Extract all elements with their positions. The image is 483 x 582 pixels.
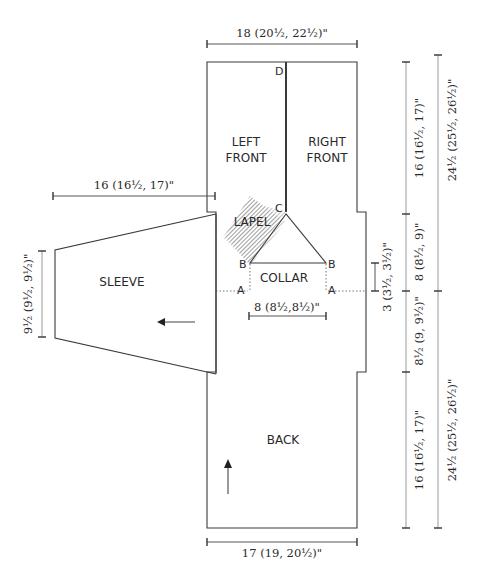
back-label: BACK [267, 433, 301, 447]
right-front-label-2: FRONT [307, 151, 349, 165]
front-length-measure: 16 (16½, 17)" [412, 98, 426, 178]
point-d: D [275, 65, 283, 78]
back-total-measure: 24½ (25½, 26½)" [445, 379, 459, 482]
collar-width-measure: 8 (8½,8½)" [254, 300, 320, 314]
front-width-measure: 18 (20½, 22½)" [236, 26, 327, 40]
front-armhole-measure: 8 (8½, 9)" [412, 223, 426, 281]
front-total-measure: 24½ (25½, 26½)" [445, 79, 459, 182]
right-front-label-1: RIGHT [308, 135, 346, 149]
point-a-left: A [237, 284, 245, 297]
sleeve-length-measure: 16 (16½, 17)" [94, 178, 174, 192]
sleeve-label: SLEEVE [99, 275, 144, 289]
schematic-canvas: LEFT FRONT RIGHT FRONT LAPEL COLLAR SLEE… [0, 0, 483, 582]
back-direction-arrow-icon [224, 459, 232, 494]
point-b-right: B [328, 258, 336, 271]
back-length-measure: 16 (16½, 17)" [412, 410, 426, 490]
sleeve-cuff-measure: 9½ (9½, 9½)" [21, 254, 35, 335]
sleeve-direction-arrow-icon [157, 318, 195, 326]
sleeve-outline [55, 214, 216, 374]
lapel-label: LAPEL [234, 215, 271, 229]
point-b-left: B [239, 258, 247, 271]
back-width-measure: 17 (19, 20½)" [242, 546, 322, 560]
left-front-label-2: FRONT [226, 151, 268, 165]
point-c: C [275, 202, 283, 215]
left-front-label-1: LEFT [232, 135, 261, 149]
back-armhole-measure: 8½ (9, 9½)" [412, 296, 426, 365]
collar-label: COLLAR [260, 271, 308, 285]
point-a-right: A [328, 284, 336, 297]
collar-depth-measure: 3 (3½, 3½)" [380, 242, 394, 311]
